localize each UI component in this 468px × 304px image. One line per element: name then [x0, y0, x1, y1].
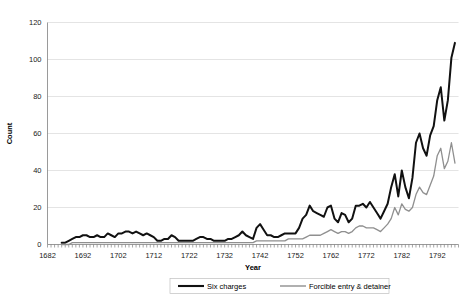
y-tick-label: 0: [37, 240, 41, 249]
y-axis-title: Count: [5, 122, 14, 144]
x-axis-title: Year: [245, 263, 261, 272]
x-tick-label: 1732: [216, 251, 233, 260]
x-tick-label: 1762: [323, 251, 340, 260]
chart-container: 020406080100120 168216921702171217221732…: [0, 0, 468, 304]
y-tick-label: 40: [33, 166, 41, 175]
y-tick-label: 60: [33, 129, 41, 138]
chart-legend: Six chargesForcible entry & detainer: [170, 279, 391, 294]
legend-label-1: Forcible entry & detainer: [309, 282, 391, 291]
y-tick-label: 100: [29, 55, 42, 64]
x-tick-label: 1692: [75, 251, 92, 260]
legend-label-0: Six charges: [207, 282, 246, 291]
x-tick-label: 1722: [181, 251, 198, 260]
x-tick-label: 1682: [39, 251, 56, 260]
y-tick-label: 80: [33, 92, 41, 101]
x-tick-label: 1792: [429, 251, 446, 260]
x-tick-label: 1742: [252, 251, 269, 260]
x-tick-label: 1712: [145, 251, 162, 260]
line-chart: 020406080100120 168216921702171217221732…: [0, 0, 468, 304]
x-tick-label: 1702: [110, 251, 127, 260]
x-tick-label: 1782: [393, 251, 410, 260]
y-tick-label: 120: [29, 18, 42, 27]
y-tick-label: 20: [33, 203, 41, 212]
x-tick-label: 1752: [287, 251, 304, 260]
x-tick-label: 1772: [358, 251, 375, 260]
